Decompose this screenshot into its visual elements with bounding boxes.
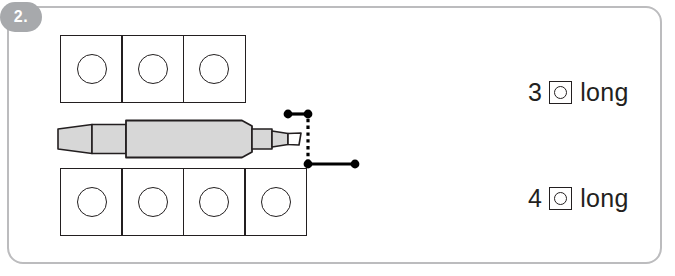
- answer-number: 4: [528, 184, 542, 213]
- circle-icon: [77, 187, 107, 217]
- circle-icon: [554, 86, 567, 99]
- marker-pen-icon: [56, 118, 311, 160]
- top-grid-row: [60, 35, 246, 103]
- grid-cell: [121, 168, 184, 236]
- square-with-circle-icon: [549, 81, 572, 104]
- answer-label-top: 3 long: [528, 78, 629, 107]
- grid-cell: [244, 168, 307, 236]
- answer-unit-word: long: [580, 78, 628, 107]
- circle-icon: [261, 187, 291, 217]
- circle-icon: [77, 54, 107, 84]
- grid-cell: [121, 35, 184, 103]
- circle-icon: [199, 187, 229, 217]
- grid-cell: [60, 35, 123, 103]
- grid-cell: [60, 168, 123, 236]
- grid-cell: [183, 35, 246, 103]
- circle-icon: [138, 54, 168, 84]
- answer-label-bottom: 4 long: [528, 184, 629, 213]
- circle-icon: [138, 187, 168, 217]
- bottom-measurement-endpoint-marks: [300, 157, 368, 171]
- answer-number: 3: [528, 78, 542, 107]
- circle-icon: [199, 54, 229, 84]
- circle-icon: [554, 192, 567, 205]
- grid-cell: [183, 168, 246, 236]
- bottom-grid-row: [60, 168, 307, 236]
- square-with-circle-icon: [549, 187, 572, 210]
- problem-number-badge: 2.: [0, 2, 42, 32]
- answer-unit-word: long: [580, 184, 628, 213]
